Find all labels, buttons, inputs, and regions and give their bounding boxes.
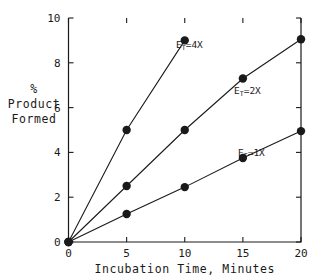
series-annotation-rest: =2X xyxy=(244,85,261,96)
data-point xyxy=(297,127,305,135)
y-tick-label: 8 xyxy=(54,57,61,70)
data-series xyxy=(69,39,302,242)
y-axis-title-line: Formed xyxy=(11,112,56,126)
data-markers xyxy=(64,35,305,246)
data-point xyxy=(122,182,130,190)
data-point xyxy=(122,210,130,218)
x-tick-label: 20 xyxy=(294,247,307,260)
data-point xyxy=(297,35,305,43)
data-point xyxy=(181,183,189,191)
data-point xyxy=(122,126,130,134)
data-point xyxy=(239,74,247,82)
series-annotation-rest: =1X xyxy=(248,147,265,158)
series-annotations: ET=4XET=2XET=1X xyxy=(176,39,265,160)
y-tick-label: 10 xyxy=(47,12,60,25)
y-tick-label: 2 xyxy=(54,191,61,204)
series-annotation: ET=2X xyxy=(234,85,261,98)
y-tick-label: 0 xyxy=(54,236,61,249)
data-point xyxy=(64,238,72,246)
series-line xyxy=(69,39,302,242)
chart-figure: 024681005101520 ET=4XET=2XET=1X Incubati… xyxy=(0,0,315,280)
x-tick-label: 10 xyxy=(178,247,191,260)
x-tick-label: 5 xyxy=(123,247,130,260)
y-axis-title-line: Product xyxy=(8,97,61,111)
x-axis-title: Incubation Time, Minutes xyxy=(94,262,275,276)
y-axis-title-line: % xyxy=(30,82,38,96)
line-chart: 024681005101520 ET=4XET=2XET=1X Incubati… xyxy=(0,0,315,280)
y-tick-label: 4 xyxy=(54,146,61,159)
series-annotation: ET=4X xyxy=(176,39,203,52)
x-tick-label: 15 xyxy=(236,247,249,260)
axis-titles: Incubation Time, Minutes%ProductFormed xyxy=(8,82,275,276)
data-point xyxy=(181,126,189,134)
series-annotation-rest: =4X xyxy=(186,39,203,50)
x-tick-label: 0 xyxy=(65,247,72,260)
